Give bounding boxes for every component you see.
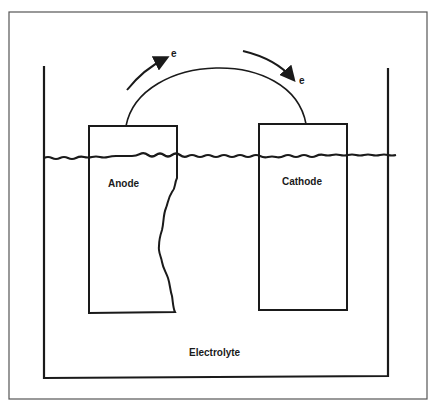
external-wire bbox=[126, 68, 306, 126]
outer-frame bbox=[9, 12, 427, 399]
anode-label: Anode bbox=[108, 178, 139, 189]
diagram-canvas: Anode Cathode Electrolyte e e bbox=[0, 0, 435, 407]
electron-label-left: e bbox=[171, 48, 177, 59]
electron-flow-arrow-left bbox=[127, 58, 166, 90]
electron-label-right: e bbox=[299, 75, 305, 86]
electron-flow-arrow-right bbox=[243, 51, 293, 79]
cathode-electrode bbox=[259, 124, 347, 310]
electrolyte-label: Electrolyte bbox=[189, 347, 240, 358]
cathode-label: Cathode bbox=[282, 176, 322, 187]
container-vessel bbox=[44, 66, 388, 378]
electrolyte-surface bbox=[44, 153, 396, 159]
diagram-svg bbox=[0, 0, 435, 407]
